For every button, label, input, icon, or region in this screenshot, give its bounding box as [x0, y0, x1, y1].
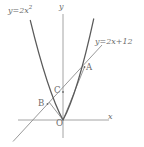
parabola-equation-text: y=2x — [8, 6, 29, 15]
point-label-c: C — [54, 86, 61, 95]
figure-canvas — [0, 0, 144, 147]
point-b-marker — [47, 103, 49, 105]
parabola-equation-label: y=2x2 — [8, 7, 32, 15]
point-label-o: O — [56, 119, 63, 128]
line-equation-label: y=2x+12 — [95, 38, 133, 46]
y-axis-label: y — [59, 3, 64, 11]
point-label-a: A — [86, 63, 92, 72]
parabola-equation-exponent: 2 — [29, 4, 33, 10]
math-figure: y=2x2 y=2x+12 y x A B C O — [0, 0, 144, 147]
x-axis-label: x — [108, 113, 113, 121]
point-c-marker — [62, 91, 64, 93]
point-label-b: B — [38, 99, 44, 108]
